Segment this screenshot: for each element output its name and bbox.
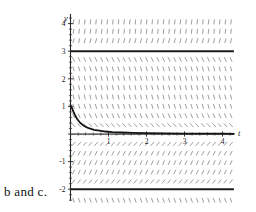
y-tick-label: 1 bbox=[62, 102, 66, 111]
y-tick-label: 2 bbox=[62, 75, 66, 84]
x-tick-label: 3 bbox=[183, 137, 187, 146]
solution-curve bbox=[71, 105, 234, 134]
axis-tick-labels: 12344321-1-2 bbox=[59, 19, 224, 194]
slope-field-plot: 12344321-1-2 t y bbox=[0, 0, 256, 212]
x-tick-label: 2 bbox=[145, 137, 149, 146]
slope-field bbox=[71, 19, 233, 202]
y-axis-label: y bbox=[63, 13, 68, 23]
x-tick-label: 1 bbox=[107, 137, 111, 146]
figure-container: 12344321-1-2 t y b and c. bbox=[0, 0, 256, 212]
x-tick-label: 4 bbox=[221, 137, 225, 146]
figure-caption: b and c. bbox=[4, 184, 47, 200]
solution-curve-path bbox=[71, 105, 234, 134]
y-tick-label: -2 bbox=[59, 185, 65, 194]
x-axis-label: t bbox=[238, 128, 241, 138]
y-tick-label: 3 bbox=[62, 47, 66, 56]
equilibrium-lines bbox=[71, 51, 234, 189]
y-tick-label: -1 bbox=[59, 157, 65, 166]
